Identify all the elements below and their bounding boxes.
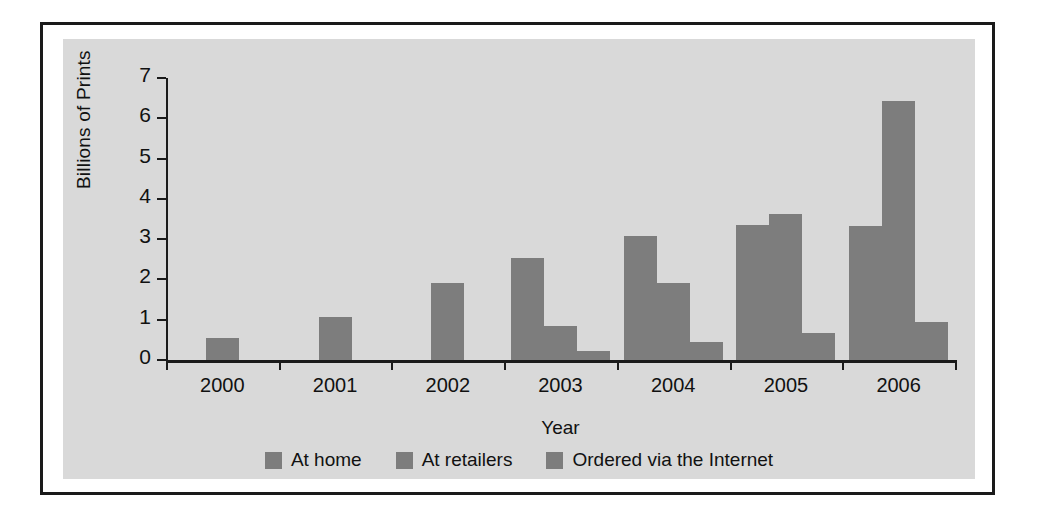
x-axis-tick <box>166 360 168 370</box>
bar[interactable] <box>849 226 882 360</box>
bar[interactable] <box>624 236 657 360</box>
bar[interactable] <box>544 326 577 360</box>
x-axis-category-label: 2001 <box>279 374 392 397</box>
x-axis-tick <box>504 360 506 370</box>
bar[interactable] <box>431 283 464 360</box>
y-axis-tick-label: 6 <box>139 104 151 126</box>
y-axis-line <box>166 78 168 361</box>
x-axis-tick <box>391 360 393 370</box>
y-axis-tick: 1 <box>157 319 166 321</box>
x-axis-tick <box>279 360 281 370</box>
y-axis-tick-label: 2 <box>139 265 151 287</box>
bar[interactable] <box>690 342 723 360</box>
legend-label: At retailers <box>422 449 513 471</box>
x-axis-tick <box>842 360 844 370</box>
bar[interactable] <box>802 333 835 360</box>
x-axis-tick <box>730 360 732 370</box>
legend-label: At home <box>291 449 362 471</box>
x-axis-title: Year <box>166 417 955 439</box>
legend-label: Ordered via the Internet <box>572 449 773 471</box>
y-axis-tick: 4 <box>157 198 166 200</box>
y-axis-tick-label: 3 <box>139 225 151 247</box>
legend-item[interactable]: Ordered via the Internet <box>546 449 773 471</box>
bar[interactable] <box>319 317 352 361</box>
x-axis-tick <box>617 360 619 370</box>
x-axis-tick <box>955 360 957 370</box>
bar[interactable] <box>769 214 802 360</box>
y-axis-tick: 6 <box>157 117 166 119</box>
bar[interactable] <box>657 283 690 360</box>
x-axis-category-label: 2002 <box>391 374 504 397</box>
chart-legend: At homeAt retailersOrdered via the Inter… <box>63 449 975 471</box>
legend-swatch <box>546 452 563 469</box>
legend-swatch <box>396 452 413 469</box>
legend-item[interactable]: At home <box>265 449 362 471</box>
bar[interactable] <box>206 338 239 360</box>
chart-panel: Billions of Prints 01234567 200020012002… <box>63 39 975 479</box>
y-axis-tick: 3 <box>157 238 166 240</box>
bar[interactable] <box>511 258 544 360</box>
y-axis-tick: 2 <box>157 278 166 280</box>
y-axis-tick-label: 0 <box>139 346 151 368</box>
x-axis-category-label: 2004 <box>617 374 730 397</box>
bar[interactable] <box>915 322 948 360</box>
x-axis-category-label: 2003 <box>504 374 617 397</box>
bar[interactable] <box>882 101 915 360</box>
y-axis-title: Billions of Prints <box>73 50 95 189</box>
y-axis-tick-label: 7 <box>139 64 151 86</box>
x-axis-category-label: 2000 <box>166 374 279 397</box>
y-axis-tick: 5 <box>157 158 166 160</box>
bar[interactable] <box>577 351 610 360</box>
x-axis-category-label: 2005 <box>730 374 843 397</box>
y-axis-tick-label: 5 <box>139 145 151 167</box>
legend-item[interactable]: At retailers <box>396 449 513 471</box>
figure-frame: Billions of Prints 01234567 200020012002… <box>40 22 995 495</box>
x-axis-category-label: 2006 <box>842 374 955 397</box>
x-axis-line <box>166 360 955 363</box>
y-axis-tick-label: 1 <box>139 306 151 328</box>
y-axis-tick: 0 <box>157 359 166 361</box>
bar[interactable] <box>736 225 769 360</box>
plot-area: 01234567 2000200120022003200420052006 <box>166 78 955 360</box>
legend-swatch <box>265 452 282 469</box>
y-axis-tick-label: 4 <box>139 185 151 207</box>
y-axis-tick: 7 <box>157 77 166 79</box>
